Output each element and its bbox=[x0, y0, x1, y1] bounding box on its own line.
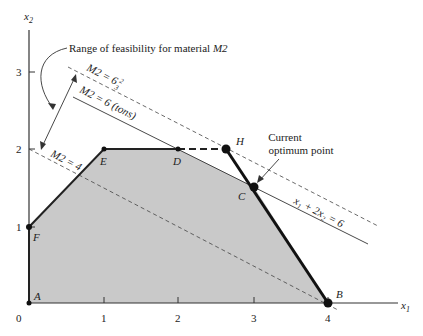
label-m2-current: M2 = 6 (tons) bbox=[77, 83, 139, 123]
x-tick-4: 4 bbox=[325, 312, 331, 324]
y-axis-label: x2 bbox=[23, 10, 33, 25]
label-h: H bbox=[235, 135, 245, 147]
curved-arrow bbox=[41, 48, 67, 108]
range-arrow-head-bottom bbox=[40, 141, 46, 150]
label-a: A bbox=[33, 290, 41, 302]
range-arrow bbox=[42, 77, 75, 147]
x-tick-2: 2 bbox=[175, 312, 181, 324]
point-b bbox=[324, 299, 333, 308]
point-a bbox=[27, 301, 32, 306]
label-d: D bbox=[172, 155, 181, 167]
x-tick-3: 3 bbox=[251, 312, 257, 324]
label-constraint: x₁ + 2x₂ = 6 bbox=[291, 194, 346, 230]
label-optimum-line2: optimum point bbox=[268, 144, 333, 156]
label-range-feasibility: Range of feasibility for material M2 bbox=[69, 42, 228, 54]
label-f: F bbox=[32, 231, 40, 243]
label-c: C bbox=[238, 190, 246, 202]
y-tick-2: 2 bbox=[16, 143, 22, 155]
x-axis-label: x1 bbox=[400, 299, 410, 314]
point-f bbox=[26, 224, 32, 230]
point-c bbox=[250, 183, 259, 192]
range-arrow-head-top bbox=[71, 74, 77, 83]
x-tick-0: 0 bbox=[16, 312, 22, 324]
point-e bbox=[102, 147, 107, 152]
lp-diagram: 0 1 2 3 4 1 2 3 x1 x2 A B C D E F H M2 =… bbox=[0, 0, 423, 336]
curved-arrow-head bbox=[48, 103, 56, 110]
point-h bbox=[222, 145, 231, 154]
label-b: B bbox=[336, 288, 343, 300]
x-tick-1: 1 bbox=[101, 312, 107, 324]
label-optimum-line1: Current bbox=[268, 131, 302, 143]
label-m2-lower: M2 = 4 bbox=[48, 147, 84, 173]
point-d bbox=[176, 147, 181, 152]
y-tick-1: 1 bbox=[16, 221, 22, 233]
label-e: E bbox=[99, 155, 107, 167]
y-tick-3: 3 bbox=[16, 66, 22, 78]
